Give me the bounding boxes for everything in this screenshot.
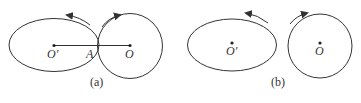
panel-b: O′ O (b) bbox=[188, 13, 353, 89]
label-contact-a: A bbox=[85, 47, 94, 61]
arrow-ellipse-b bbox=[246, 13, 268, 23]
caption-a: (a) bbox=[90, 75, 103, 89]
label-o-a: O bbox=[125, 47, 134, 61]
label-o-b: O bbox=[315, 44, 324, 58]
orbit-diagram: O′ A O (a) O′ O (b) bbox=[0, 0, 361, 103]
label-o-prime-a: O′ bbox=[47, 47, 59, 61]
caption-b: (b) bbox=[271, 75, 285, 89]
label-o-prime-b: O′ bbox=[226, 44, 238, 58]
panel-a: O′ A O (a) bbox=[9, 14, 163, 90]
